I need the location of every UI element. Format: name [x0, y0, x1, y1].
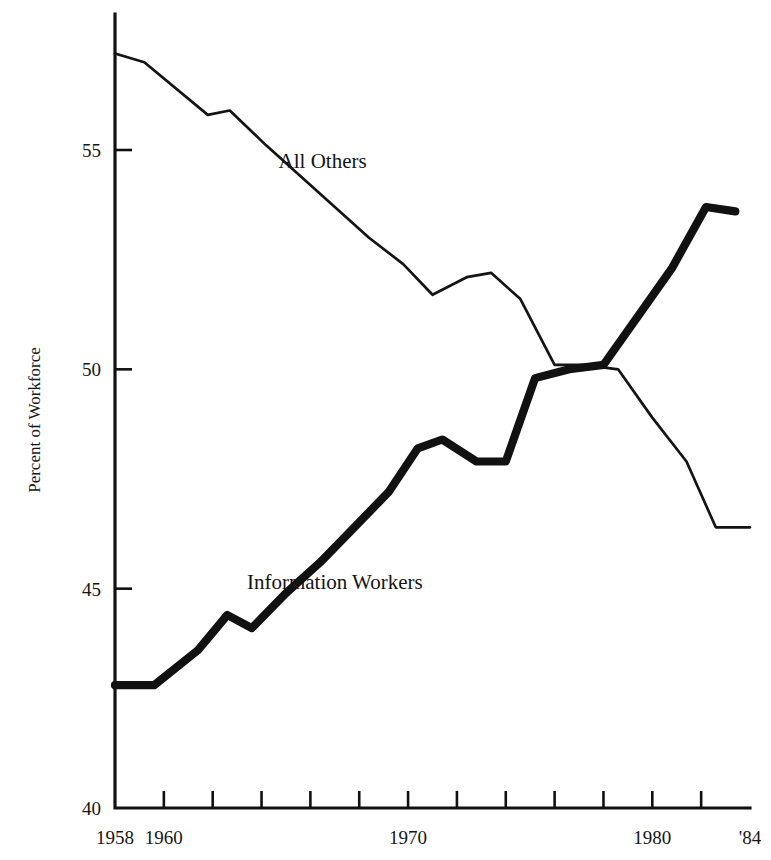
y-tick-label-50: 50	[82, 359, 101, 380]
chart-container: 40455055 1958196019701980'84 Percent of …	[0, 0, 771, 860]
series-annotation-information-workers: Information Workers	[247, 570, 423, 594]
series-annotation-all-others: All Others	[279, 149, 367, 173]
x-tick-label-1960: 1960	[145, 827, 183, 848]
y-tick-label-45: 45	[82, 579, 101, 600]
series-line-information-workers	[115, 207, 735, 685]
line-chart: 40455055 1958196019701980'84 Percent of …	[0, 0, 771, 860]
y-axis-title: Percent of Workforce	[25, 347, 44, 493]
axis-lines	[115, 14, 750, 808]
y-tick-label-55: 55	[82, 140, 101, 161]
y-axis-ticks	[115, 150, 132, 589]
plot-axes	[115, 14, 750, 808]
x-tick-label-1958: 1958	[96, 827, 134, 848]
x-axis-ticks	[164, 791, 701, 808]
x-tick-label-1984: '84	[739, 827, 762, 848]
x-tick-label-1980: 1980	[633, 827, 671, 848]
y-axis-tick-labels: 40455055	[82, 140, 101, 819]
x-axis-tick-labels: 1958196019701980'84	[96, 827, 762, 848]
y-tick-label-40: 40	[82, 798, 101, 819]
x-tick-label-1970: 1970	[389, 827, 427, 848]
